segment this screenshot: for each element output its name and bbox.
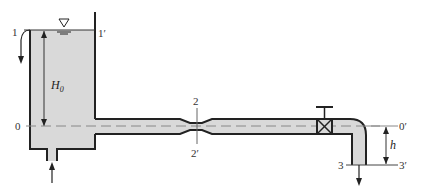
label-section-2: 2 — [193, 95, 199, 107]
label-height: h — [390, 138, 396, 152]
label-section-0-prime: 0′ — [399, 120, 407, 132]
free-surface-icon — [57, 19, 71, 34]
inlet-arrow-icon — [49, 162, 55, 183]
inlet-fluid — [47, 149, 57, 161]
pipe-bottom-wall — [95, 130, 352, 165]
label-section-2-prime: 2′ — [191, 147, 199, 159]
outlet-arrow-icon — [356, 165, 362, 186]
overflow-arrow-icon — [18, 30, 30, 64]
label-section-0: 0 — [15, 120, 21, 132]
height-dimension — [383, 127, 389, 164]
gate-valve-icon — [316, 107, 333, 134]
label-section-1-prime: 1′ — [98, 27, 106, 39]
label-section-1: 1 — [12, 26, 18, 38]
label-section-3-prime: 3′ — [399, 159, 407, 171]
label-section-3: 3 — [338, 159, 344, 171]
flow-diagram: H0 1 1′ 0 2 2′ 0′ h 3 3 — [0, 0, 422, 195]
